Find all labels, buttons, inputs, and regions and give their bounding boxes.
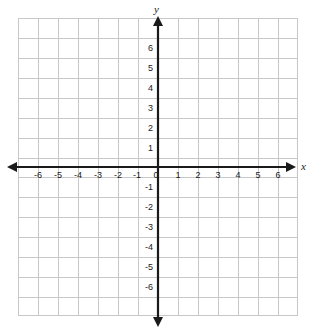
x-tick-label--6: -6 [28,171,48,180]
y-axis-label: y [154,4,159,15]
y-tick-label--4: -4 [133,243,153,252]
x-tick-label--2: -2 [108,171,128,180]
grid-and-axes [0,0,316,334]
y-tick-label--6: -6 [133,283,153,292]
coordinate-plane: -6 -5 -4 -3 -2 -1 0 1 2 3 4 5 6 6 5 4 3 … [0,0,316,334]
x-axis-left-arrowhead [7,162,17,172]
y-tick-label--5: -5 [133,263,153,272]
y-tick-label-2: 2 [133,124,153,133]
y-tick-label-5: 5 [133,64,153,73]
y-tick-label-1: 1 [133,144,153,153]
x-tick-label-3: 3 [208,171,228,180]
x-tick-label-0: 0 [146,171,166,180]
y-tick-label-4: 4 [133,84,153,93]
x-tick-label-4: 4 [228,171,248,180]
x-tick-label-5: 5 [248,171,268,180]
x-tick-label--3: -3 [88,171,108,180]
y-tick-label-6: 6 [133,44,153,53]
x-axis-label: x [301,161,306,172]
y-tick-label--2: -2 [133,203,153,212]
x-tick-label-2: 2 [188,171,208,180]
y-tick-label-3: 3 [133,104,153,113]
x-tick-label-6: 6 [268,171,288,180]
y-tick-label--1: -1 [133,183,153,192]
x-tick-label--5: -5 [48,171,68,180]
y-axis-top-arrowhead [153,16,163,26]
y-tick-label--3: -3 [133,223,153,232]
y-axis-bottom-arrowhead [153,317,163,327]
x-tick-label-1: 1 [168,171,188,180]
x-tick-label--1: -1 [127,171,147,180]
x-tick-label--4: -4 [68,171,88,180]
